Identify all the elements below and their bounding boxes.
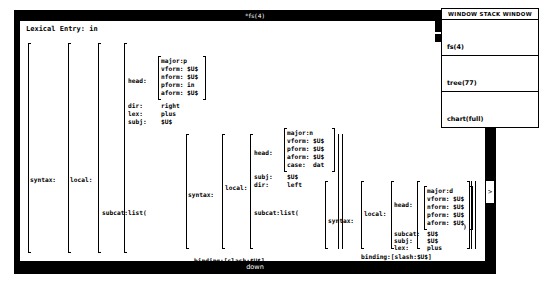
label-local-1: local: <box>70 176 92 183</box>
block1-feature: aform: $U$ <box>161 89 198 96</box>
bracket-close-2 <box>471 181 472 249</box>
stack-item-label: tree(77) <box>447 79 477 87</box>
bracket-block3-3 <box>417 181 420 249</box>
block3-head-label: head: <box>394 201 413 208</box>
block2-feature: pform: $U$ <box>287 145 324 152</box>
window-stack-title: WINDOW STACK WINDOW <box>442 9 538 20</box>
block3-feature: pform: $U$ <box>427 211 464 218</box>
block1-value: $U$ <box>161 118 172 125</box>
bracket-block3-outer <box>325 181 328 249</box>
block2-value: $U$ <box>287 173 298 180</box>
block3-value: plus <box>427 244 442 251</box>
block3-key: subj: <box>394 237 413 244</box>
block3-feature: aform: $U$ <box>427 219 464 226</box>
block1-value: plus <box>161 110 176 117</box>
block1-value: right <box>161 102 180 109</box>
stack-item-label: chart(full) <box>447 115 483 123</box>
label-subcat-list-2: subcat:list( <box>254 209 299 216</box>
bracket-close-1 <box>467 181 470 249</box>
bracket-block2-head-close <box>332 128 335 172</box>
bracket-block1 <box>124 43 127 253</box>
block2-feature: major:n <box>287 129 313 136</box>
bracket-mid-close-1 <box>338 134 339 249</box>
block3-binding: binding:[slash:$U$] <box>361 253 432 260</box>
fs-canvas: Lexical Entry: in syntax: local: head: m… <box>20 21 485 261</box>
bracket-close-3 <box>475 181 476 249</box>
window-titlebar[interactable]: *fs(4) <box>15 11 495 20</box>
fs-window: *fs(4) > down Lexical Entry: in syntax: … <box>14 10 496 274</box>
block1-feature: pform: in <box>161 81 195 88</box>
window-stack-window: WINDOW STACK WINDOW fs(4) tree(77) chart… <box>441 8 539 128</box>
block2-feature: aform: $U$ <box>287 153 324 160</box>
block2-feature: case: dat <box>287 161 324 168</box>
bracket-outer-1 <box>28 43 31 253</box>
label-subcat-list-1: subcat:list( <box>102 209 147 216</box>
block1-key: lex: <box>128 110 143 117</box>
bracket-outer-2 <box>68 43 71 253</box>
block1-key: dir: <box>128 102 143 109</box>
stack-item-chart[interactable]: chart(full) <box>442 92 538 127</box>
screenshot-root: *fs(4) > down Lexical Entry: in syntax: … <box>0 0 546 286</box>
block2-value: left <box>287 181 302 188</box>
block3-feature: vform: $U$ <box>427 195 464 202</box>
block3-key: subcat: <box>394 230 420 237</box>
block3-key: lex: <box>394 244 409 251</box>
block1-head-label: head: <box>128 77 147 84</box>
block1-key: subj: <box>128 118 147 125</box>
block1-feature: major:p <box>161 57 187 64</box>
bracket-block2-1 <box>222 134 225 249</box>
stack-item-tree[interactable]: tree(77) <box>442 56 538 92</box>
page-title: Lexical Entry: in <box>26 26 98 33</box>
block3-value: $U$ <box>427 237 438 244</box>
label-syntax-2: syntax: <box>188 191 214 198</box>
label-local-3: local: <box>364 210 386 217</box>
label-syntax-1: syntax: <box>30 176 56 183</box>
block3-feature: nform: $U$ <box>427 203 464 210</box>
block3-value: $U$ <box>427 230 438 237</box>
bracket-mid-close-2 <box>342 134 343 249</box>
label-local-2: local: <box>225 184 247 191</box>
block2-feature: vform: $U$ <box>287 137 324 144</box>
block3-feature: major:d <box>427 187 453 194</box>
bracket-block1-head-close <box>203 56 206 100</box>
window-status-bar: down <box>15 261 495 273</box>
stack-item-fs[interactable]: fs(4) <box>442 20 538 56</box>
block2-key: dir: <box>254 181 269 188</box>
bracket-block2-2 <box>250 134 253 249</box>
bottom-binding: binding:[slash:$U$] <box>194 257 265 261</box>
stack-item-label: fs(4) <box>447 43 464 51</box>
block1-feature: nform: $U$ <box>161 73 198 80</box>
scrollbar-thumb[interactable]: > <box>486 181 494 203</box>
block2-head-label: head: <box>254 149 273 156</box>
block1-feature: vform: $U$ <box>161 65 198 72</box>
block2-key: subj: <box>254 173 273 180</box>
close-paren-1: ) <box>463 223 467 230</box>
bracket-outer-3 <box>98 43 101 253</box>
